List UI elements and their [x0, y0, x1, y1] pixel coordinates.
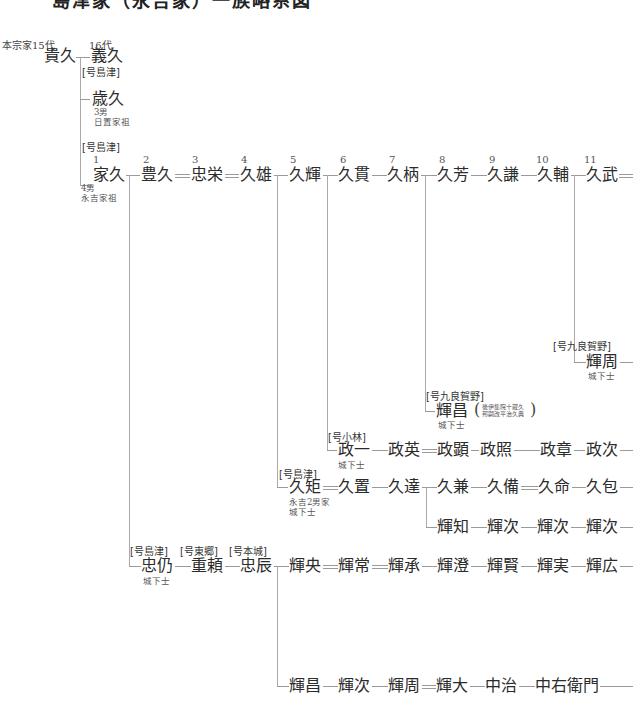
person-hisasuke: 久輔 [537, 166, 569, 184]
gen-number: 8 [439, 155, 445, 165]
gou-label: [号島津] [82, 142, 120, 154]
adoption-line [422, 449, 437, 453]
line [129, 566, 141, 567]
line [620, 450, 633, 451]
person-terukane: 輝周 [388, 677, 420, 695]
note: 3男 日置家祖 [94, 107, 130, 127]
branch-line [426, 487, 427, 528]
line [225, 566, 240, 567]
line [372, 450, 388, 451]
adoption-line [225, 174, 239, 178]
person-hisakane: 久兼 [437, 478, 469, 496]
person-hisatsura: 久貫 [338, 166, 370, 184]
branch-line [80, 57, 81, 185]
person-masaaki2: 政章 [540, 441, 572, 459]
person-hisanori: 久矩 [289, 478, 321, 496]
person-tadanao: 忠仍 [141, 557, 173, 575]
line [471, 487, 487, 488]
line [574, 362, 586, 363]
line [327, 450, 337, 451]
person-hisae: 久柄 [387, 166, 419, 184]
line [620, 566, 633, 567]
gen-number: 10 [536, 155, 549, 165]
gen-number: 2 [143, 155, 149, 165]
line [519, 686, 535, 687]
person-toyohisa: 豊久 [141, 166, 173, 184]
gen-number: 3 [192, 155, 198, 165]
person-iehisa: 家久 [93, 166, 125, 184]
line [600, 686, 633, 687]
gen-number: 11 [584, 155, 597, 165]
person-chuemon: 中右衛門 [535, 677, 599, 695]
line [175, 566, 191, 567]
line [277, 686, 289, 687]
note: 城下士 [438, 420, 465, 430]
gou-label: [号島津] [82, 67, 120, 79]
person-toshihisa: 歳久 [92, 90, 124, 108]
line [425, 411, 435, 412]
gen-number: 1 [93, 155, 99, 165]
note: 4男 永吉家祖 [81, 183, 117, 203]
person-hisakane2: 久包 [586, 478, 618, 496]
branch-line [574, 175, 575, 362]
person-terusane: 輝実 [537, 557, 569, 575]
person-terutsugu-s: 輝承 [388, 557, 420, 575]
note: 城下士 [338, 460, 365, 470]
paren-close: ) [530, 401, 536, 419]
person-terukata: 輝賢 [487, 557, 519, 575]
note: 城下士 [588, 371, 615, 381]
adoption-line [323, 565, 338, 569]
line [571, 527, 586, 528]
person-hisatake: 久武 [586, 166, 618, 184]
person-hisaoki: 久置 [338, 478, 370, 496]
person-hisateru: 久輝 [289, 166, 321, 184]
line [471, 566, 487, 567]
gen-number: 9 [489, 155, 495, 165]
line [620, 487, 633, 488]
paren-open: ( [474, 401, 480, 419]
line [471, 527, 487, 528]
person-hisayoshi: 久芳 [437, 166, 469, 184]
gen-number: 6 [340, 155, 346, 165]
line [372, 686, 388, 687]
person-hisakane-9: 久謙 [487, 166, 519, 184]
line [620, 527, 633, 528]
person-masakazu: 政一 [338, 441, 370, 459]
line [521, 527, 537, 528]
person-hisao: 久雄 [240, 166, 272, 184]
branch-line [327, 175, 328, 450]
line [471, 175, 487, 176]
person-terumasa: 輝昌 [436, 402, 468, 420]
note: 城下士 [143, 576, 170, 586]
branch-line [425, 175, 426, 411]
paren-note: 後伊集院十蔵久 邦嗣改平治久典 [482, 403, 524, 417]
person-teruhiro: 輝広 [586, 557, 618, 575]
branch-line [277, 566, 278, 686]
adoption-line [422, 685, 436, 689]
line [470, 686, 485, 687]
person-terutsugu3: 輝次 [586, 518, 618, 536]
gen-number: 5 [290, 155, 296, 165]
person-terukiyo: 輝澄 [437, 557, 469, 575]
line [620, 362, 633, 363]
line [514, 450, 540, 451]
line [76, 57, 90, 58]
line [422, 487, 437, 488]
person-hisatatsu: 久達 [388, 478, 420, 496]
person-masateru: 政照 [480, 441, 512, 459]
person-masaaki: 政顕 [437, 441, 469, 459]
person-terutsugu2: 輝次 [537, 518, 569, 536]
person-yoshihisa: 義久 [91, 47, 123, 65]
diagram-title: 島津家（永吉家）一族略系図 [52, 0, 312, 6]
adoption-line [372, 565, 388, 569]
adoption-line [521, 486, 538, 490]
adoption-line [175, 174, 190, 178]
person-teruhiro2: 輝大 [436, 677, 468, 695]
person-terutsune: 輝常 [338, 557, 370, 575]
line [574, 450, 585, 451]
adoption-line [619, 174, 633, 178]
person-tadanaga: 忠栄 [191, 166, 223, 184]
line [572, 487, 586, 488]
person-masatsugu: 政次 [586, 441, 618, 459]
person-teruhisa: 輝央 [289, 557, 321, 575]
